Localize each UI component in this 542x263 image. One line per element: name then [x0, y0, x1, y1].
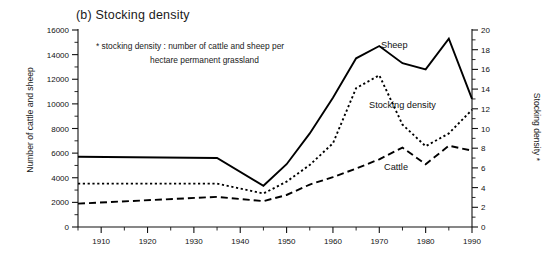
- y-tick-label-right: 2: [481, 203, 486, 212]
- series-label-sheep: Sheep: [381, 40, 408, 50]
- x-tick-label: 1950: [278, 237, 296, 246]
- y-tick-label-left: 10000: [47, 100, 70, 109]
- y-tick-label-left: 2000: [51, 198, 69, 207]
- y-tick-label-right: 18: [481, 46, 490, 55]
- y-tick-label-right: 6: [481, 164, 486, 173]
- y-tick-label-right: 20: [481, 26, 490, 35]
- y-tick-label-right: 4: [481, 184, 486, 193]
- y-tick-label-right: 16: [481, 65, 490, 74]
- series-group: [78, 39, 472, 204]
- x-tick-label: 1930: [185, 237, 203, 246]
- y-tick-label-right: 0: [481, 223, 486, 232]
- y-tick-label-left: 4000: [51, 174, 69, 183]
- x-tick-label: 1960: [324, 237, 342, 246]
- y-tick-label-left: 12000: [47, 75, 70, 84]
- x-tick-label: 1970: [370, 237, 388, 246]
- axes-group: 0200040006000800010000120001400016000024…: [47, 26, 491, 246]
- x-tick-label: 1990: [463, 237, 481, 246]
- y-tick-label-left: 6000: [51, 149, 69, 158]
- series-label-stocking-density: Stocking density: [369, 100, 436, 110]
- x-tick-label: 1980: [417, 237, 435, 246]
- y-tick-label-left: 8000: [51, 125, 69, 134]
- y-tick-label-left: 0: [65, 223, 70, 232]
- x-tick-label: 1910: [92, 237, 110, 246]
- series-annotations: SheepStocking densityCattle: [369, 40, 436, 172]
- series-line-sheep: [78, 39, 472, 186]
- x-tick-label: 1940: [231, 237, 249, 246]
- y-tick-label-right: 8: [481, 144, 486, 153]
- y-tick-label-left: 14000: [47, 51, 70, 60]
- y-tick-label-right: 14: [481, 85, 490, 94]
- y-tick-label-right: 10: [481, 125, 490, 134]
- x-tick-label: 1920: [139, 237, 157, 246]
- y-tick-label-right: 12: [481, 105, 490, 114]
- y-tick-label-left: 16000: [47, 26, 70, 35]
- series-label-cattle: Cattle: [384, 162, 408, 172]
